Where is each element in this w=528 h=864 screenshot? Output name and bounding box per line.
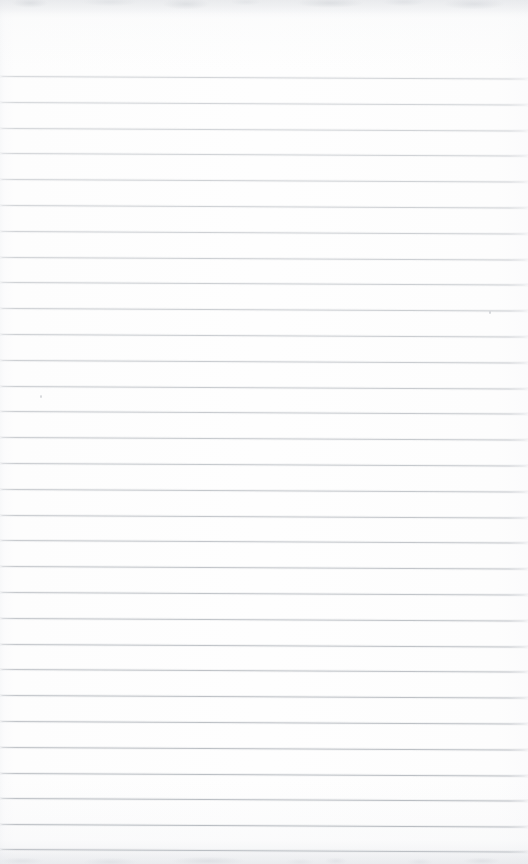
- ruled-line: [0, 617, 528, 622]
- ruled-line: [0, 127, 528, 132]
- ruled-line: [0, 152, 528, 157]
- ruled-line: [0, 668, 528, 673]
- ruled-line: [0, 307, 528, 312]
- ruled-line: [0, 823, 528, 828]
- ruled-line: [0, 591, 528, 596]
- scanned-notebook-page: [0, 0, 528, 864]
- ruled-line: [0, 385, 528, 390]
- ruled-line: [0, 359, 528, 364]
- ruled-line: [0, 514, 528, 519]
- ruled-line: [0, 410, 528, 415]
- ruled-line: [0, 281, 528, 286]
- ruled-line: [0, 539, 528, 544]
- ruled-line: [0, 75, 528, 80]
- ruled-line: [0, 488, 528, 493]
- ruled-line: [0, 333, 528, 338]
- ruled-line: [0, 230, 528, 235]
- ruled-line: [0, 204, 528, 209]
- ruled-line: [0, 746, 528, 751]
- ruled-line: [0, 256, 528, 261]
- ruled-line: [0, 720, 528, 725]
- ruled-line: [0, 565, 528, 570]
- ruled-line: [0, 694, 528, 699]
- ruled-line: [0, 436, 528, 441]
- ruled-line: [0, 178, 528, 183]
- ruled-line: [0, 643, 528, 648]
- ruled-line-group: [0, 0, 528, 864]
- ruled-line: [0, 772, 528, 777]
- ruled-line: [0, 462, 528, 467]
- ruled-line: [0, 101, 528, 106]
- ruled-line: [0, 797, 528, 802]
- ruled-line: [0, 848, 528, 853]
